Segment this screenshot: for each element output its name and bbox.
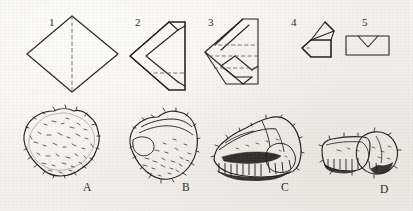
diagram-4-shape [302,22,334,57]
diagram-3-shape [205,19,258,84]
figure-linework [0,0,413,211]
figure-canvas: 1 2 3 4 5 A B C D [0,0,413,211]
artifact-d-drawing [319,128,401,178]
artifact-label-c: C [281,182,289,194]
fold-step-label-2: 2 [135,17,141,28]
fold-step-label-3: 3 [208,17,214,28]
artifact-label-d: D [380,184,389,196]
artifact-label-b: B [182,182,190,194]
fold-step-label-1: 1 [49,17,55,28]
diagram-1-shape [27,16,118,92]
artifact-label-a: A [83,182,92,194]
artifact-b-drawing [130,108,200,183]
artifact-a-drawing [24,105,100,178]
diagram-5-shape [346,36,389,55]
artifact-c-drawing [211,115,304,181]
fold-step-label-5: 5 [362,17,368,28]
diagram-2-shape [130,22,185,90]
fold-step-label-4: 4 [291,17,297,28]
